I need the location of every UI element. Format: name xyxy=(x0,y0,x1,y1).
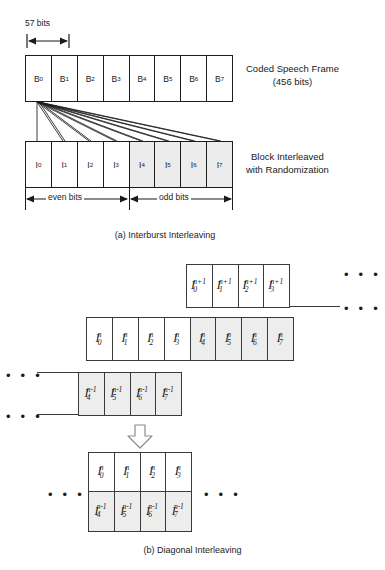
cell-superscript: n+1 xyxy=(193,276,206,288)
cell-i2: I2 xyxy=(78,142,104,187)
cell-superscript: n-1 xyxy=(164,384,174,396)
cell-b5: B5 xyxy=(155,56,181,101)
cell-superscript: n xyxy=(150,329,154,341)
cell-i0: I0 xyxy=(26,142,52,187)
cell-subscript: 5 xyxy=(169,75,172,82)
cell-i3: I3 xyxy=(104,142,130,187)
dimension-label-57-bits: 57 bits xyxy=(25,18,50,29)
interleaving-fanout-lines xyxy=(25,101,235,142)
row-n-minus-1-tail-line-top xyxy=(37,372,78,373)
row-n-minus-1-tail-line-bottom xyxy=(37,414,78,415)
cell-superscript: n xyxy=(253,329,257,341)
cell-superscript: n xyxy=(201,329,205,341)
ellipsis-result-right: • • • xyxy=(204,492,241,498)
cell-superscript: n-1 xyxy=(122,501,132,513)
cell-b0: B0 xyxy=(26,56,52,101)
cell-i5-n: In 5n xyxy=(216,318,242,360)
cell-superscript: n xyxy=(227,329,231,341)
row-n-plus-1-tail-line xyxy=(290,306,340,307)
cell-subscript: 3 xyxy=(117,75,120,82)
cell-i6: I6 xyxy=(181,142,207,187)
cell-i3-n: In 3n xyxy=(166,453,191,491)
cell-i4-nminus1: In-1 4n-1 xyxy=(79,373,105,415)
cell-b1: B1 xyxy=(52,56,78,101)
cell-superscript: n xyxy=(98,329,102,341)
cell-i0-n: In 0n xyxy=(87,318,113,360)
cell-i7-nminus1: In-1 7n-1 xyxy=(156,373,181,415)
cell-i1-n: In 1n xyxy=(115,453,141,491)
coded-speech-frame-note: Coded Speech Frame (456 bits) xyxy=(246,62,339,88)
cell-subscript: 2 xyxy=(90,161,93,168)
coded-speech-frame-note-line1: Coded Speech Frame xyxy=(246,62,339,75)
cell-i0-nplus1: In+1 0n+1 xyxy=(187,265,213,307)
cell-i6-n: In 6n xyxy=(242,318,268,360)
diagonal-row-n-plus-1: In+1 0n+1In+1 1n+1In+1 2n+1In+1 3n+1 xyxy=(186,264,290,308)
cell-i7-nminus1: In-1 7n-1 xyxy=(166,492,191,531)
cell-i1: I1 xyxy=(52,142,78,187)
cell-subscript: 2 xyxy=(91,75,94,82)
cell-superscript: n xyxy=(175,329,179,341)
ellipsis-left-lower: • • • xyxy=(6,414,43,420)
cell-subscript: 7 xyxy=(221,75,224,82)
cell-superscript: n xyxy=(100,462,104,474)
cell-superscript: n xyxy=(177,462,181,474)
cell-i1-nplus1: In+1 1n+1 xyxy=(213,265,239,307)
cell-subscript: 6 xyxy=(195,75,198,82)
cell-superscript: n xyxy=(151,462,155,474)
cell-b7: B7 xyxy=(207,56,232,101)
cell-subscript: 6 xyxy=(193,161,196,168)
cell-b2: B2 xyxy=(78,56,104,101)
cell-superscript: n+1 xyxy=(219,276,232,288)
figure-interleaving: 57 bits B0B1B2B3B4B5B6B7 Coded Speech Fr… xyxy=(0,0,385,570)
cell-subscript: 3 xyxy=(116,161,119,168)
cell-subscript: 4 xyxy=(141,161,144,168)
cell-i4: I4 xyxy=(130,142,156,187)
ellipsis-top-right: • • • xyxy=(344,272,381,278)
cell-subscript: 0 xyxy=(40,75,43,82)
cell-subscript: 1 xyxy=(65,75,68,82)
cell-superscript: n+1 xyxy=(245,276,258,288)
block-interleaved-row: I0I1I2I3I4I5I6I7 xyxy=(25,141,233,188)
ellipsis-result-left: • • • xyxy=(48,492,85,498)
cell-i5-nminus1: In-1 5n-1 xyxy=(115,492,141,531)
even-bits-label: even bits xyxy=(46,192,84,203)
cell-i4-n: In 4n xyxy=(191,318,217,360)
diagonal-row-n-minus-1: In-1 4n-1In-1 5n-1In-1 6n-1In-1 7n-1 xyxy=(78,372,182,416)
cell-i0-n: In 0n xyxy=(89,453,115,491)
coded-speech-frame-note-line2: (456 bits) xyxy=(246,75,339,88)
odd-bits-label: odd bits xyxy=(157,192,191,203)
cell-b6: B6 xyxy=(181,56,207,101)
cell-i2-nplus1: In+1 2n+1 xyxy=(239,265,265,307)
cell-i6-nminus1: In-1 6n-1 xyxy=(141,492,167,531)
result-grid-top-row: In 0nIn 1nIn 2nIn 3n xyxy=(89,453,191,492)
cell-subscript: 1 xyxy=(64,161,67,168)
cell-b3: B3 xyxy=(104,56,130,101)
cell-subscript: 4 xyxy=(143,75,146,82)
cell-i7: I7 xyxy=(207,142,232,187)
cell-superscript: n+1 xyxy=(271,276,284,288)
cell-i6-nminus1: In-1 6n-1 xyxy=(131,373,157,415)
cell-i1-n: In 1n xyxy=(113,318,139,360)
cell-superscript: n xyxy=(126,462,130,474)
cell-i5: I5 xyxy=(155,142,181,187)
cell-i3-nplus1: In+1 3n+1 xyxy=(264,265,289,307)
cell-subscript: 5 xyxy=(167,161,170,168)
cell-subscript: 7 xyxy=(219,161,222,168)
block-interleaved-note-line2: with Randomization xyxy=(246,163,329,176)
caption-panel-b: (b) Diagonal Interleaving xyxy=(0,545,385,555)
cell-subscript: 0 xyxy=(38,161,41,168)
block-interleaved-note: Block Interleaved with Randomization xyxy=(246,150,329,176)
cell-i4-nminus1: In-1 4n-1 xyxy=(89,492,115,531)
cell-superscript: n-1 xyxy=(97,501,107,513)
caption-panel-a: (a) Interburst Interleaving xyxy=(0,230,330,240)
coded-speech-frame-row: B0B1B2B3B4B5B6B7 xyxy=(25,55,233,102)
cell-superscript: n xyxy=(279,329,283,341)
cell-i5-nminus1: In-1 5n-1 xyxy=(105,373,131,415)
cell-superscript: n xyxy=(124,329,128,341)
ellipsis-left-upper: • • • xyxy=(6,373,43,379)
cell-i3-n: In 3n xyxy=(165,318,191,360)
result-grid-bottom-row: In-1 4n-1In-1 5n-1In-1 6n-1In-1 7n-1 xyxy=(89,492,191,531)
diagonal-row-n: In 0nIn 1nIn 2nIn 3nIn 4nIn 5nIn 6nIn 7n xyxy=(86,317,294,361)
cell-superscript: n-1 xyxy=(174,501,184,513)
ellipsis-mid-right: • • • xyxy=(344,306,381,312)
